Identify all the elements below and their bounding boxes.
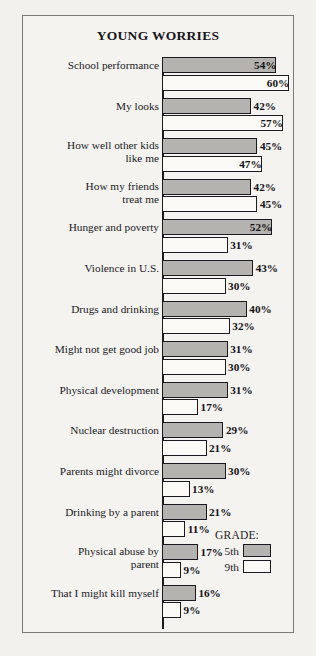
bar-row: 30% xyxy=(162,463,286,479)
chart-legend: GRADE: 5th9th xyxy=(215,529,293,573)
bar-row: 21% xyxy=(162,504,267,520)
bar-value-label: 31% xyxy=(228,237,253,253)
category-label-line: My looks xyxy=(25,100,159,113)
bar-row: 32% xyxy=(162,318,290,334)
bar-9th xyxy=(162,399,198,415)
bar-value-label: 43% xyxy=(253,260,278,276)
category-label: That I might kill myself xyxy=(25,587,159,600)
legend-items: 5th9th xyxy=(215,544,293,573)
bar-5th xyxy=(162,341,228,357)
bar-5th xyxy=(162,138,257,154)
category-label-line: Physical development xyxy=(25,384,159,397)
bar-row: 17% xyxy=(162,399,258,415)
bar-group: Nuclear destruction29%21% xyxy=(23,422,295,456)
bar-value-label: 42% xyxy=(251,179,276,195)
bar-value-label: 60% xyxy=(162,75,293,91)
bar-group: How my friendstreat me42%45% xyxy=(23,179,295,213)
bar-value-label: 29% xyxy=(223,422,248,438)
bar-row: 31% xyxy=(162,237,288,253)
legend-item-label: 5th xyxy=(215,545,239,557)
bar-9th xyxy=(162,318,230,334)
bar-5th xyxy=(162,260,253,276)
bar-5th xyxy=(162,382,228,398)
chart-title: YOUNG WORRIES xyxy=(23,28,293,44)
bar-row: 30% xyxy=(162,359,286,375)
bar-row: 52% xyxy=(162,219,316,235)
bar-row: 57% xyxy=(162,115,316,131)
bar-9th xyxy=(162,562,181,578)
bar-row: 47% xyxy=(162,156,316,172)
bar-group: Parents might divorce30%13% xyxy=(23,463,295,497)
bar-9th xyxy=(162,196,257,212)
category-label-line: How my friends xyxy=(25,180,159,193)
bar-value-label: 32% xyxy=(230,318,255,334)
bar-row: 9% xyxy=(162,602,241,618)
category-label-line: treat me xyxy=(25,193,159,206)
bar-9th xyxy=(162,237,228,253)
category-label-line: Physical abuse by xyxy=(25,545,159,558)
bar-value-label: 21% xyxy=(207,504,232,520)
category-label: Physical abuse byparent xyxy=(25,545,159,571)
bar-row: 13% xyxy=(162,481,250,497)
bar-9th xyxy=(162,359,226,375)
bar-group: Violence in U.S.43%30% xyxy=(23,260,295,294)
bar-row: 54% xyxy=(162,57,316,73)
bar-row: 40% xyxy=(162,301,307,317)
category-label-line: Parents might divorce xyxy=(25,465,159,478)
bar-5th xyxy=(162,179,251,195)
bar-row: 43% xyxy=(162,260,313,276)
bar-value-label: 31% xyxy=(228,341,253,357)
category-label: Hunger and poverty xyxy=(25,221,159,234)
bar-value-label: 45% xyxy=(257,196,282,212)
bar-group: Hunger and poverty52%31% xyxy=(23,219,295,253)
category-label-line: Violence in U.S. xyxy=(25,262,159,275)
bar-9th xyxy=(162,278,226,294)
bar-row: 45% xyxy=(162,196,316,212)
legend-item-9th: 9th xyxy=(215,560,293,573)
bar-row: 16% xyxy=(162,585,256,601)
bar-value-label: 57% xyxy=(162,115,287,131)
bar-value-label: 9% xyxy=(181,602,200,618)
bar-value-label: 47% xyxy=(162,156,266,172)
bar-5th xyxy=(162,463,226,479)
bar-9th xyxy=(162,481,190,497)
bar-value-label: 30% xyxy=(226,278,251,294)
category-label: Nuclear destruction xyxy=(25,424,159,437)
bar-9th xyxy=(162,521,185,537)
bar-5th xyxy=(162,544,198,560)
bar-group: Might not get good job31%30% xyxy=(23,341,295,375)
bar-row: 31% xyxy=(162,382,288,398)
category-label: Parents might divorce xyxy=(25,465,159,478)
bar-value-label: 54% xyxy=(162,57,280,73)
legend-item-5th: 5th xyxy=(215,544,293,557)
category-label-line: Drinking by a parent xyxy=(25,506,159,519)
category-label-line: How well other kids xyxy=(25,139,159,152)
category-label-line: Drugs and drinking xyxy=(25,303,159,316)
legend-swatch xyxy=(243,544,271,557)
category-label: How my friendstreat me xyxy=(25,180,159,206)
category-label: Drinking by a parent xyxy=(25,506,159,519)
category-label-line: That I might kill myself xyxy=(25,587,159,600)
bar-5th xyxy=(162,585,196,601)
bar-value-label: 30% xyxy=(226,359,251,375)
bar-value-label: 40% xyxy=(247,301,272,317)
category-label-line: Nuclear destruction xyxy=(25,424,159,437)
category-label: My looks xyxy=(25,100,159,113)
bar-9th xyxy=(162,440,207,456)
bar-value-label: 52% xyxy=(162,219,276,235)
category-label-line: Hunger and poverty xyxy=(25,221,159,234)
chart-frame: YOUNG WORRIES School performance54%60%My… xyxy=(22,15,294,633)
bar-5th xyxy=(162,504,207,520)
bar-group: Physical development31%17% xyxy=(23,382,295,416)
bar-value-label: 16% xyxy=(196,585,221,601)
bar-row: 31% xyxy=(162,341,288,357)
bar-group: How well other kidslike me45%47% xyxy=(23,138,295,172)
category-label: Drugs and drinking xyxy=(25,303,159,316)
bar-row: 60% xyxy=(162,75,316,91)
bar-group: Drugs and drinking40%32% xyxy=(23,301,295,335)
bar-row: 30% xyxy=(162,278,286,294)
category-label-line: School performance xyxy=(25,59,159,72)
bar-value-label: 9% xyxy=(181,562,200,578)
bar-value-label: 31% xyxy=(228,382,253,398)
bar-value-label: 42% xyxy=(251,98,276,114)
